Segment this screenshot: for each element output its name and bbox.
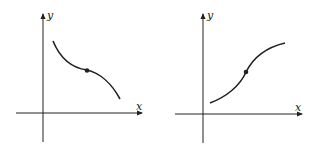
x-axis-label: x (295, 101, 302, 114)
diagram: y x y x (0, 0, 318, 151)
y-axis-label: y (46, 9, 54, 22)
y-axis-label: y (206, 9, 214, 22)
graph-increasing: y x (175, 9, 302, 143)
graph-decreasing: y x (16, 9, 143, 142)
inflection-point (244, 70, 249, 75)
x-axis-label: x (136, 100, 143, 113)
inflection-point (85, 68, 90, 73)
